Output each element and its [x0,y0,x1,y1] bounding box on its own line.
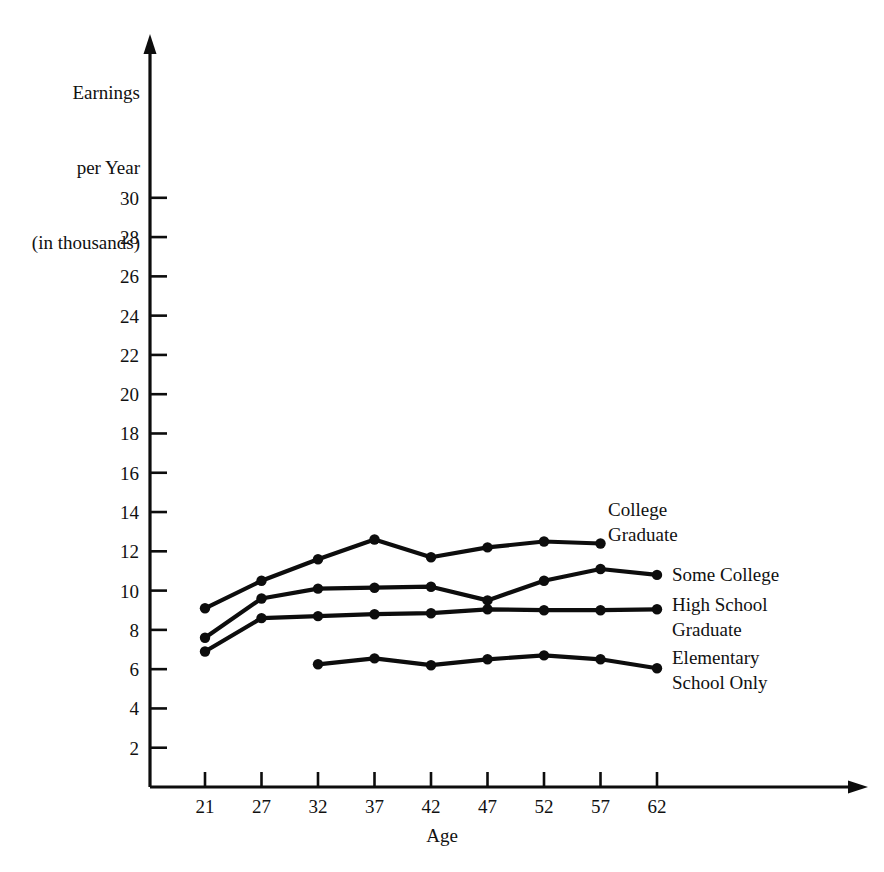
y-tick-label: 26 [120,266,139,287]
x-axis-ticks: 212732374247525762 [196,772,667,817]
data-point [200,646,210,656]
data-point [369,653,379,663]
data-point [652,604,662,614]
earnings-by-age-line-chart: Earnings per Year (in thousands) Age Col… [0,0,884,872]
y-tick-label: 22 [120,345,139,366]
plot-area: 30282624222018161412108642 2127323742475… [0,0,884,872]
y-tick-label: 30 [120,188,139,209]
data-point [539,576,549,586]
x-tick-label: 27 [252,796,271,817]
data-point [482,595,492,605]
x-tick-label: 62 [648,796,667,817]
y-tick-label: 20 [120,384,139,405]
y-tick-label: 18 [120,423,139,444]
y-tick-label: 28 [120,227,139,248]
data-point [426,552,436,562]
y-axis-arrowhead [144,34,157,54]
y-tick-label: 6 [130,659,140,680]
series-layer [200,534,662,673]
y-tick-label: 24 [120,306,140,327]
y-axis-ticks: 30282624222018161412108642 [120,188,167,759]
data-point [426,660,436,670]
data-point [539,536,549,546]
x-tick-label: 42 [422,796,441,817]
data-point [482,654,492,664]
data-point [426,608,436,618]
data-point [426,582,436,592]
data-point [200,603,210,613]
y-tick-label: 4 [130,698,140,719]
y-tick-label: 12 [120,541,139,562]
data-point [482,542,492,552]
series-line [205,569,657,638]
x-tick-label: 57 [591,796,610,817]
data-point [595,654,605,664]
data-point [313,659,323,669]
data-point [539,605,549,615]
data-point [652,570,662,580]
data-point [539,650,549,660]
x-tick-label: 32 [309,796,328,817]
y-tick-label: 10 [120,581,139,602]
axis-lines [144,34,869,794]
data-point [256,593,266,603]
data-point [313,583,323,593]
data-point [369,583,379,593]
data-point [313,611,323,621]
x-tick-label: 21 [196,796,215,817]
x-tick-label: 47 [478,796,497,817]
data-point [595,564,605,574]
data-point [595,538,605,548]
data-point [369,609,379,619]
y-tick-label: 8 [130,620,140,641]
data-point [652,663,662,673]
data-point [200,633,210,643]
data-point [256,576,266,586]
x-tick-label: 37 [365,796,384,817]
y-tick-label: 2 [130,738,140,759]
data-point [369,534,379,544]
data-point [595,605,605,615]
data-point [256,613,266,623]
y-tick-label: 14 [120,502,140,523]
x-tick-label: 52 [535,796,554,817]
y-tick-label: 16 [120,463,139,484]
x-axis-arrowhead [848,781,868,794]
data-point [313,554,323,564]
data-point [482,604,492,614]
